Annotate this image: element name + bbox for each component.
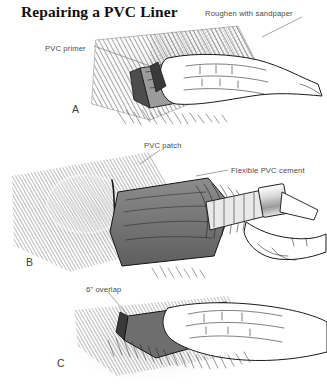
leader-roughen [262,17,302,37]
callout-roughen-with-sandpaper: Roughen with sandpaper [205,9,293,18]
leader-cement [196,170,228,176]
hand-a [160,54,322,104]
callout-flexible-pvc-cement: Flexible PVC cement [231,166,305,175]
callout-pvc-primer: PVC primer [45,44,86,53]
hand-b [244,222,326,260]
callout-pvc-patch: PVC patch [144,141,182,150]
panel-letter-c: C [57,357,65,369]
figure-page: Repairing a PVC Liner [0,0,327,389]
brush-handle-b [280,192,318,220]
panel-letter-a: A [72,103,79,115]
cement-brush-b [206,183,318,230]
panel-letter-b: B [26,256,33,268]
illustration-artwork [0,0,327,389]
panel-c-artwork [68,292,327,382]
callout-six-inch-overlap: 6" overlap [86,285,121,294]
panel-a-artwork [83,22,322,125]
texture-b-lower [152,266,205,278]
